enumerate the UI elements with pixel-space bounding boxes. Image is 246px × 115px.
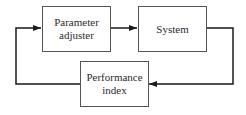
system-block: System (138, 6, 207, 52)
block-label-line: System (156, 23, 188, 36)
performance-index-block: Performance index (80, 61, 149, 107)
block-label-line: Performance (86, 71, 142, 84)
parameter-adjuster-block: Parameter adjuster (42, 6, 111, 52)
block-label-line: adjuster (54, 29, 99, 42)
block-label-line: index (86, 84, 142, 97)
block-label-line: Parameter (54, 16, 99, 29)
